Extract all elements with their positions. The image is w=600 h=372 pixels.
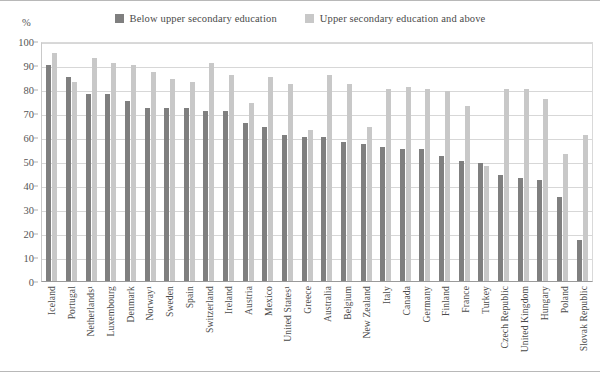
x-axis-label: Luxembourg	[100, 284, 120, 370]
bar	[131, 65, 136, 281]
y-axis-unit-label: %	[22, 17, 31, 28]
bar	[105, 94, 110, 281]
x-axis-label-text: Sweden	[164, 286, 175, 317]
bar	[52, 53, 57, 281]
bar	[46, 65, 51, 281]
x-axis-label: Hungary	[534, 284, 554, 370]
bar-group	[356, 43, 376, 281]
bar	[229, 75, 234, 281]
x-axis-label: Iceland	[41, 284, 61, 370]
y-axis-tick-label: 90	[24, 61, 35, 72]
bar	[308, 130, 313, 281]
bar	[190, 82, 195, 281]
x-axis-label-text: Canada	[400, 286, 411, 315]
bar	[459, 161, 464, 281]
y-axis-tick-mark	[34, 66, 38, 67]
bar	[249, 103, 254, 281]
x-axis-label-text: France	[459, 286, 470, 313]
bar	[367, 127, 372, 281]
y-axis-tick-label: 20	[24, 229, 35, 240]
x-axis-label-text: Hungary	[538, 286, 549, 320]
legend-swatch-below-icon	[115, 14, 124, 23]
x-axis-label-text: Austria	[243, 286, 254, 315]
chart-frame: Below upper secondary education Upper se…	[0, 0, 600, 372]
bar-group	[101, 43, 121, 281]
bar	[92, 58, 97, 281]
legend-label-below: Below upper secondary education	[130, 13, 277, 24]
y-axis-tick-mark	[34, 258, 38, 259]
bar	[243, 123, 248, 281]
x-axis-label-text: United States¹	[282, 286, 293, 342]
bar	[465, 106, 470, 281]
x-axis-label: Portugal	[61, 284, 81, 370]
bar	[361, 144, 366, 281]
y-axis-tick-label: 100	[18, 37, 34, 48]
bar-group	[42, 43, 62, 281]
bar	[209, 63, 214, 281]
bar	[288, 84, 293, 281]
y-axis-tick-mark	[34, 90, 38, 91]
x-axis-label-text: Portugal	[65, 286, 76, 319]
x-axis-labels: IcelandPortugalNetherlands¹LuxembourgDen…	[41, 284, 593, 370]
x-axis-label: United States¹	[278, 284, 298, 370]
bar-group	[396, 43, 416, 281]
bar-group	[160, 43, 180, 281]
x-axis-label: Slovak Republic	[573, 284, 593, 370]
bar	[341, 142, 346, 281]
chart-legend: Below upper secondary education Upper se…	[0, 7, 600, 29]
bar	[302, 137, 307, 281]
x-axis-label: Netherlands¹	[80, 284, 100, 370]
bar	[145, 108, 150, 281]
x-axis-label-text: Norway¹	[144, 286, 155, 320]
bar	[347, 84, 352, 281]
x-axis-label: Greece	[297, 284, 317, 370]
x-axis-label-text: Turkey	[479, 286, 490, 314]
bar	[170, 79, 175, 281]
x-axis-label: Sweden	[159, 284, 179, 370]
bar	[380, 147, 385, 281]
y-axis-tick-mark	[34, 234, 38, 235]
bar-groups	[42, 43, 592, 281]
bar-group	[238, 43, 258, 281]
x-axis-label-text: Czech Republic	[499, 286, 510, 348]
bar	[282, 135, 287, 281]
bar-group	[81, 43, 101, 281]
bar-group	[179, 43, 199, 281]
bar	[262, 127, 267, 281]
x-axis-label: New Zealand	[357, 284, 377, 370]
bar	[268, 77, 273, 281]
bar	[327, 75, 332, 281]
bar-group	[553, 43, 573, 281]
bar	[537, 180, 542, 281]
x-axis-label: Turkey	[475, 284, 495, 370]
bar	[445, 91, 450, 281]
legend-item-upper: Upper secondary education and above	[305, 13, 486, 24]
x-axis-label-text: Australia	[321, 286, 332, 322]
bar-group	[140, 43, 160, 281]
bar	[425, 89, 430, 281]
x-axis-label: Norway¹	[140, 284, 160, 370]
bar	[439, 156, 444, 281]
x-axis-label: Canada	[396, 284, 416, 370]
y-axis-tick-label: 80	[24, 85, 35, 96]
bar-group	[219, 43, 239, 281]
x-axis-label-text: New Zealand	[361, 286, 372, 339]
bar	[66, 77, 71, 281]
x-axis-label-text: Netherlands¹	[85, 286, 96, 336]
bar	[386, 89, 391, 281]
bar	[86, 94, 91, 281]
x-axis-label-text: Switzerland	[203, 286, 214, 333]
x-axis-label-text: Germany	[420, 286, 431, 322]
x-axis-label-text: Iceland	[45, 286, 56, 315]
y-axis-tick-mark	[34, 282, 38, 283]
bar	[125, 101, 130, 281]
bar-group	[62, 43, 82, 281]
x-axis-label: Finland	[435, 284, 455, 370]
x-axis-label-text: Belgium	[341, 286, 352, 320]
x-axis-label-text: Italy	[381, 286, 392, 304]
x-axis-label-text: Spain	[183, 286, 194, 308]
x-axis-label: Switzerland	[199, 284, 219, 370]
y-axis-tick-label: 50	[24, 157, 35, 168]
bar	[321, 137, 326, 281]
x-axis-label-text: Denmark	[124, 286, 135, 322]
